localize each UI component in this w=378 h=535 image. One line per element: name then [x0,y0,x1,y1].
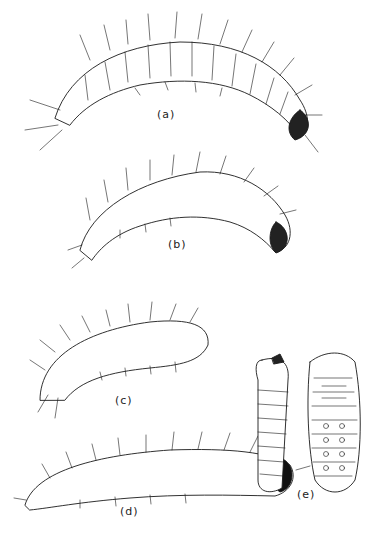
label-e: (e) [297,488,315,501]
larvae-illustration [0,0,378,535]
label-c: (c) [115,394,133,407]
label-b: (b) [168,238,187,251]
pupa-e [256,353,360,492]
label-a: (a) [157,108,175,121]
larva-a [25,12,322,152]
label-d: (d) [120,505,139,518]
